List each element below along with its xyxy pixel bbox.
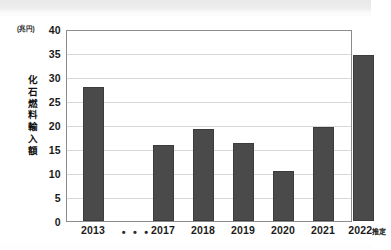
bar-2022est bbox=[353, 55, 374, 221]
y-tick-label: 40 bbox=[20, 24, 61, 36]
page-bottom-edge bbox=[0, 243, 371, 250]
x-tick-label-2019: 2019 bbox=[222, 224, 264, 236]
bar-2018 bbox=[193, 129, 214, 221]
x-axis-tick-labels: 2013 • • • 2017 2018 2019 2020 2021 2022… bbox=[66, 224, 352, 240]
bar-2019 bbox=[233, 143, 254, 221]
y-tick-label: 20 bbox=[20, 120, 61, 132]
y-tick-label: 5 bbox=[20, 192, 61, 204]
y-tick-label: 10 bbox=[20, 168, 61, 180]
page-top-band-fade bbox=[0, 12, 371, 16]
bar-2013 bbox=[83, 87, 104, 221]
bar-2021 bbox=[313, 127, 334, 221]
x-tick-label-2017: 2017 bbox=[142, 224, 184, 236]
y-tick-label: 25 bbox=[20, 96, 61, 108]
x-tick-label-2018: 2018 bbox=[182, 224, 224, 236]
x-tick-label-2013: 2013 bbox=[72, 224, 114, 236]
x-tick-label-2020: 2020 bbox=[262, 224, 304, 236]
y-tick-label: 35 bbox=[20, 48, 61, 60]
y-tick-label: 0 bbox=[20, 216, 61, 228]
bar-2020 bbox=[273, 171, 294, 221]
bar-2017 bbox=[153, 145, 174, 221]
y-tick-label: 30 bbox=[20, 72, 61, 84]
page-top-band bbox=[0, 0, 371, 12]
y-axis-tick-labels: 40 35 30 25 20 15 10 5 0 bbox=[20, 30, 61, 222]
x-tick-label-2022est: 2022推定 bbox=[338, 224, 391, 236]
plot-area bbox=[66, 30, 352, 222]
y-tick-label: 15 bbox=[20, 144, 61, 156]
bar-series bbox=[67, 31, 351, 221]
